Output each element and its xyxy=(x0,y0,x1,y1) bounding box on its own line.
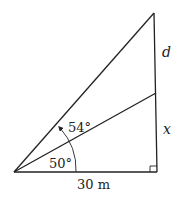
angle-inner-label: 50° xyxy=(49,156,72,171)
segment-d-label: d xyxy=(162,44,171,60)
segment-x-label: x xyxy=(163,121,171,137)
angle-outer-label: 54° xyxy=(68,120,91,135)
base-length-label: 30 m xyxy=(77,177,110,192)
right-angle-marker xyxy=(150,166,157,172)
outer-hypotenuse xyxy=(14,13,154,172)
triangle-diagram: 54° 50° d x 30 m xyxy=(0,0,181,203)
vertical-side xyxy=(154,13,157,172)
